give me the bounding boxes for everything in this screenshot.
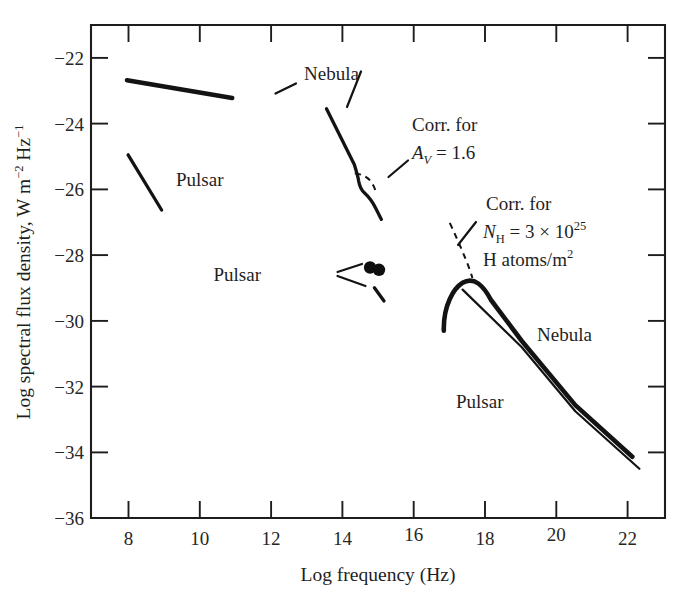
y-ticklabel-3: −28 bbox=[54, 245, 84, 266]
x-ticklabel-0: 8 bbox=[124, 528, 134, 549]
y-axis-title-base: Log spectral flux density, W m bbox=[13, 179, 34, 420]
spectrum-chart: −22 −24 −26 −28 −30 −32 −34 −36 8 10 12 … bbox=[0, 0, 692, 605]
y-ticklabel-1: −24 bbox=[54, 114, 84, 135]
y-axis-ticks bbox=[91, 58, 665, 518]
series-nebula-radio bbox=[127, 80, 232, 98]
annotation-corr-nh-line1: Corr. for bbox=[486, 193, 552, 214]
annotation-leaders bbox=[276, 72, 477, 287]
series-pulsar-optical bbox=[374, 288, 384, 301]
y-ticklabel-5: −32 bbox=[54, 377, 84, 398]
y-axis-title-mid: Hz bbox=[13, 138, 34, 166]
annotation-pulsar-optical: Pulsar bbox=[214, 264, 262, 285]
data-curves bbox=[127, 80, 639, 469]
crab-nebula-spectrum-figure: −22 −24 −26 −28 −30 −32 −34 −36 8 10 12 … bbox=[0, 0, 692, 605]
annotation-pulsar-radio: Pulsar bbox=[176, 169, 224, 190]
x-ticklabel-7: 22 bbox=[618, 528, 637, 549]
x-ticklabel-3: 14 bbox=[333, 528, 353, 549]
leader-corr-av bbox=[389, 161, 409, 178]
leader-pulsar-dot-lower bbox=[338, 276, 366, 286]
y-ticklabel-0: −22 bbox=[54, 48, 84, 69]
nh-value: = 3 × 10 bbox=[505, 221, 574, 242]
series-nebula-xray bbox=[444, 281, 633, 457]
y-axis-title: Log spectral flux density, W m−2 Hz−1 bbox=[12, 125, 34, 420]
x-ticklabel-1: 10 bbox=[190, 528, 209, 549]
leader-pulsar-dot-upper bbox=[338, 264, 363, 272]
annotation-corr-av-line2: AV = 1.6 bbox=[410, 142, 475, 167]
annotation-nebula-xray: Nebula bbox=[537, 324, 592, 345]
x-ticklabel-2: 12 bbox=[262, 528, 281, 549]
chart-annotations: Nebula Pulsar Corr. for AV = 1.6 Corr. f… bbox=[176, 63, 592, 412]
av-value: = 1.6 bbox=[431, 142, 475, 163]
x-axis-tick-labels: 8 10 12 14 16 18 20 22 bbox=[124, 524, 637, 549]
y-ticklabel-7: −36 bbox=[54, 508, 84, 529]
x-ticklabel-5: 18 bbox=[476, 528, 495, 549]
x-axis-title: Log frequency (Hz) bbox=[301, 564, 456, 586]
pulsar-optical-point-2 bbox=[373, 264, 385, 276]
av-symbol: A bbox=[410, 142, 424, 163]
y-axis-tick-labels: −22 −24 −26 −28 −30 −32 −34 −36 bbox=[54, 48, 84, 529]
y-ticklabel-2: −26 bbox=[54, 179, 84, 200]
nh-units-exponent: 2 bbox=[567, 247, 573, 261]
y-axis-title-sup2: −1 bbox=[12, 125, 26, 138]
annotation-nebula-radio: Nebula bbox=[304, 63, 359, 84]
annotation-corr-av-line1: Corr. for bbox=[412, 114, 478, 135]
nh-units: H atoms/m bbox=[483, 249, 567, 270]
y-ticklabel-6: −34 bbox=[54, 442, 84, 463]
x-ticklabel-6: 20 bbox=[547, 524, 566, 545]
annotation-corr-nh-line2: NH = 3 × 1025 bbox=[482, 219, 586, 246]
x-ticklabel-4: 16 bbox=[404, 524, 423, 545]
series-nebula-optical bbox=[327, 109, 382, 220]
nh-exponent: 25 bbox=[574, 219, 587, 233]
y-ticklabel-4: −30 bbox=[54, 311, 84, 332]
series-pulsar-radio bbox=[128, 155, 162, 210]
annotation-pulsar-xray: Pulsar bbox=[456, 391, 504, 412]
leader-corr-nh bbox=[458, 222, 476, 245]
leader-nebula-radio bbox=[276, 84, 297, 94]
nh-subscript: H bbox=[496, 232, 505, 246]
annotation-corr-nh-line3: H atoms/m2 bbox=[483, 247, 573, 270]
y-axis-title-sup1: −2 bbox=[12, 165, 26, 178]
